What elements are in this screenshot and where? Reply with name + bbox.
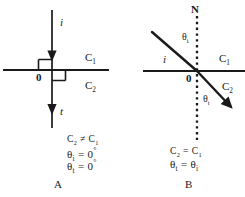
panel-a-condition-3-degree: ° bbox=[93, 158, 96, 167]
panel-a-transmitted-arrowhead bbox=[47, 104, 56, 115]
panel-a-condition-1-lhs: C bbox=[67, 134, 74, 144]
panel-b-condition-1-lhs-sub: 2 bbox=[177, 151, 180, 158]
panel-a-right-angle-marker-lower bbox=[52, 70, 66, 81]
panel-a-medium-upper-subscript: 1 bbox=[92, 58, 96, 66]
panel-b-incident-ray bbox=[152, 32, 197, 71]
panel-b-condition-2-rhs-sub: i bbox=[196, 165, 198, 173]
panel-a-incident-label: i bbox=[60, 17, 63, 28]
panel-b-normal-label: N bbox=[191, 4, 199, 15]
figure-canvas: i 0 t C1 C2 C2≠C1 θi=0° θt=0° A N θi i 0… bbox=[0, 0, 245, 197]
panel-a-origin-label: 0 bbox=[36, 72, 42, 83]
panel-b-medium-upper-label: C1 bbox=[219, 53, 230, 67]
panel-b-condition-2-op: = bbox=[181, 158, 188, 170]
panel-b-condition-2: θt=θi bbox=[170, 158, 198, 173]
panel-b-medium-upper-subscript: 1 bbox=[226, 59, 230, 67]
panel-b-angle-incidence-label: θi bbox=[182, 32, 189, 45]
panel-a-letter: A bbox=[54, 178, 62, 190]
panel-b-angle-transmission-label: θt bbox=[203, 94, 210, 107]
panel-a-medium-lower-label: C2 bbox=[85, 80, 96, 94]
panel-b-angle-incidence-subscript: i bbox=[187, 37, 189, 44]
panel-a-condition-1: C2≠C1 bbox=[67, 134, 99, 146]
panel-b-condition-1: C2=C1 bbox=[170, 146, 202, 158]
panel-b-origin-label: 0 bbox=[186, 73, 192, 84]
panel-a-condition-1-lhs-sub: 2 bbox=[74, 139, 77, 146]
panel-b-medium-lower-label: C2 bbox=[222, 81, 233, 95]
panel-a-condition-3-op: = bbox=[78, 160, 85, 172]
panel-b-condition-1-lhs: C bbox=[170, 146, 177, 156]
panel-a-condition-3: θt=0° bbox=[67, 158, 97, 175]
panel-b-condition-2-lhs-sub: t bbox=[176, 165, 178, 173]
panel-b-medium-lower-subscript: 2 bbox=[229, 87, 233, 95]
panel-a-condition-1-rhs-sub: 1 bbox=[95, 139, 98, 146]
panel-a-right-angle-marker-upper bbox=[39, 60, 53, 71]
panel-a-transmitted-label: t bbox=[60, 106, 63, 117]
panel-b-incident-label: i bbox=[163, 54, 166, 65]
panel-a-condition-2-degree: ° bbox=[93, 146, 96, 155]
panel-b-angle-transmission-subscript: t bbox=[208, 99, 210, 106]
panel-a-medium-lower-subscript: 2 bbox=[92, 86, 96, 94]
panel-a-group bbox=[3, 10, 109, 128]
panel-b-condition-1-op: = bbox=[183, 146, 189, 156]
panel-b-condition-1-rhs-sub: 1 bbox=[198, 151, 201, 158]
panel-b-group bbox=[143, 16, 245, 140]
panel-b-letter: B bbox=[185, 178, 192, 190]
panel-a-condition-1-op: ≠ bbox=[80, 134, 86, 144]
panel-a-condition-3-lhs-sub: t bbox=[73, 167, 75, 175]
panel-a-medium-upper-label: C1 bbox=[85, 52, 96, 66]
